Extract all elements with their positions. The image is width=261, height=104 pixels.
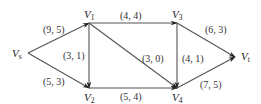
flow-network-diagram: (9, 5)(5, 3)(3, 1)(4, 4)(3, 0)(4, 1)(5, … <box>0 0 261 104</box>
edge-label-v4-vt: (7, 5) <box>200 79 222 91</box>
node-label-vt: Vt <box>241 50 251 64</box>
node-label-v4: V4 <box>172 91 183 104</box>
edge-v1-v4 <box>89 23 177 88</box>
edge-label-v1-v3: (4, 4) <box>120 10 142 22</box>
edge-label-vs-v2: (5, 3) <box>43 76 65 88</box>
edge-label-v3-vt: (6, 3) <box>205 24 227 36</box>
graph-canvas: (9, 5)(5, 3)(3, 1)(4, 4)(3, 0)(4, 1)(5, … <box>0 0 261 104</box>
edge-label-v1-v4: (3, 0) <box>142 53 164 65</box>
node-label-v3: V3 <box>172 8 183 22</box>
edge-label-v2-v4: (5, 4) <box>120 91 142 103</box>
node-label-v1: V1 <box>84 8 95 22</box>
edge-label-vs-v1: (9, 5) <box>43 24 65 36</box>
edge-label-v1-v2: (3, 1) <box>63 50 85 62</box>
node-label-vs: Vs <box>12 47 22 61</box>
edge-label-v3-v4: (4, 1) <box>182 53 204 65</box>
node-label-v2: V2 <box>84 91 95 104</box>
